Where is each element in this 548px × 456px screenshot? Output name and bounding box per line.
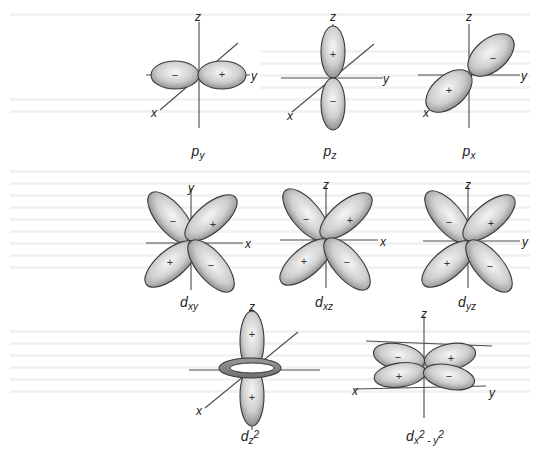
orbital-label: dz2 — [241, 428, 260, 446]
axis-label-y: y — [488, 386, 496, 400]
sign-label: − — [170, 215, 176, 227]
orbital-dxy: − + + − y x dxy — [137, 181, 252, 312]
axis-label-x: x — [351, 384, 359, 398]
axis-label-z: z — [329, 10, 336, 24]
axis-label-y: y — [520, 69, 528, 83]
orbital-diagram: − + z y x py + − z y x pz − + z y x px — [0, 0, 548, 456]
sign-label: + — [396, 370, 402, 382]
axis-label-z: z — [464, 178, 471, 192]
orbital-dyz: − + + − z y dyz — [414, 178, 529, 312]
axis-label-x: x — [244, 237, 252, 251]
sign-label: − — [395, 351, 401, 363]
axis-label-x: x — [379, 235, 387, 249]
sign-label: − — [172, 69, 178, 81]
sign-label: − — [490, 52, 496, 64]
orbital-label: py — [191, 143, 206, 161]
sign-label: − — [446, 370, 452, 382]
sign-label: − — [303, 213, 309, 225]
axis-label-z: z — [194, 10, 201, 24]
orbital-pz: + − z y x pz — [281, 10, 390, 161]
axis-label-y: y — [250, 69, 258, 83]
sign-label: + — [219, 68, 225, 80]
orbital-label: dxy — [180, 294, 199, 312]
sign-label: + — [330, 48, 336, 60]
sign-label: + — [347, 214, 353, 226]
sign-label: + — [488, 217, 494, 229]
torus-ring — [219, 358, 281, 378]
axis-label-z: z — [465, 10, 472, 24]
sign-label: − — [446, 216, 452, 228]
sign-label: + — [301, 255, 307, 267]
axis-label-z: z — [322, 178, 329, 192]
axis-label-y: y — [382, 72, 390, 86]
orbital-label: dyz — [458, 294, 476, 312]
sign-label: + — [167, 256, 173, 268]
orbital-label: pz — [323, 143, 337, 161]
axis-label-z: z — [248, 300, 255, 314]
axis-label-x: x — [286, 109, 294, 123]
axis-label-z: z — [420, 307, 427, 321]
orbital-dz2: + + z x dz2 — [189, 300, 320, 446]
sign-label: − — [344, 256, 350, 268]
orbital-px: − + z y x px — [418, 10, 528, 161]
sign-label: − — [487, 260, 493, 272]
sign-label: + — [249, 328, 255, 340]
sign-label: + — [249, 391, 255, 403]
axis-label-x: x — [150, 106, 158, 120]
sign-label: + — [444, 257, 450, 269]
orbital-py: − + z y x py — [146, 10, 258, 161]
orbital-label: px — [462, 143, 477, 161]
sign-label: + — [448, 352, 454, 364]
sign-label: + — [446, 84, 452, 96]
orbital-dxz: − + + − z x dxz — [272, 178, 387, 312]
sign-label: + — [210, 218, 216, 230]
sign-label: − — [208, 259, 214, 271]
axis-label-y: y — [521, 235, 529, 249]
orbital-label: dx2 - y2 — [406, 428, 444, 446]
orbital-label: dxz — [315, 294, 333, 312]
orbital-dx2-y2: − + + − z x y dx2 - y2 — [351, 307, 496, 446]
sign-label: − — [330, 95, 336, 107]
axis-label-x: x — [195, 404, 203, 418]
axis-label-x: x — [422, 106, 430, 120]
axis-label-y: y — [187, 181, 195, 195]
